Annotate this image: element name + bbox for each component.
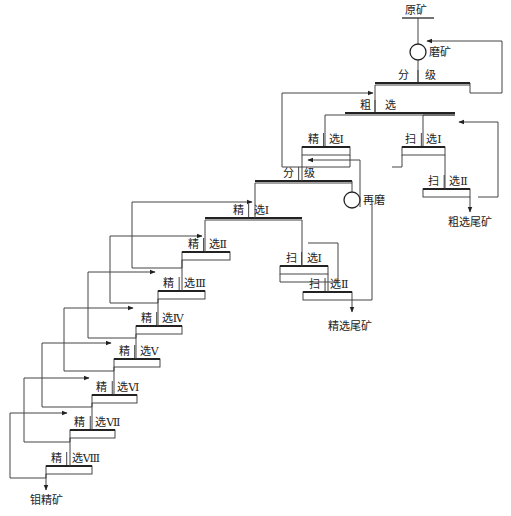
stage-scavenger-2-primary: 扫选Ⅱ bbox=[423, 175, 470, 197]
stage-label-left: 精 bbox=[188, 238, 199, 251]
regrind-label: 再磨 bbox=[363, 194, 385, 207]
stage-cleaner-5: 精选Ⅴ bbox=[114, 345, 160, 367]
stage-label-right: 选Ⅱ bbox=[209, 238, 227, 251]
stage-label-right: 选Ⅱ bbox=[449, 175, 467, 188]
flowsheet-diagram: 原矿 磨矿 分 级 粗 选 bbox=[0, 0, 511, 516]
stage-box bbox=[182, 252, 230, 260]
stage-label-left: 精 bbox=[74, 416, 85, 429]
feed-node: 原矿 bbox=[402, 4, 434, 44]
stage-cleaner-8: 精选Ⅷ bbox=[46, 452, 100, 474]
cleaner-tailings-label: 精选尾矿 bbox=[328, 320, 372, 333]
regrind-icon bbox=[344, 192, 360, 208]
stage-label-left: 粗 bbox=[360, 99, 371, 112]
stage-label-left: 扫 bbox=[405, 133, 416, 146]
stage-box bbox=[303, 292, 352, 300]
stage-label-right: 选Ⅰ bbox=[426, 133, 441, 146]
stage-cleaner-6: 精选Ⅵ bbox=[92, 381, 139, 403]
stage-label-left: 扫 bbox=[428, 175, 439, 188]
stage-cleaner-4: 精选Ⅳ bbox=[136, 312, 185, 334]
stage-box bbox=[114, 359, 160, 367]
mill-label: 磨矿 bbox=[429, 46, 451, 59]
stage-label-right: 选 bbox=[385, 99, 396, 112]
stage-label-right: 级 bbox=[304, 167, 315, 180]
stage-label-right: 选Ⅰ bbox=[329, 133, 344, 146]
stage-label-right: 选Ⅳ bbox=[162, 312, 185, 325]
stage-label-left: 扫 bbox=[309, 278, 320, 291]
mo-concentrate-label: 钼精矿 bbox=[30, 493, 63, 507]
stage-label-right: 选Ⅴ bbox=[140, 345, 160, 358]
stage-label-left: 扫 bbox=[286, 252, 297, 265]
stage-label-left: 分 bbox=[398, 69, 409, 82]
rougher-tailings-label: 粗选尾矿 bbox=[448, 216, 492, 229]
stage-cleaner-1: 精选Ⅰ bbox=[205, 204, 302, 220]
stage-box bbox=[423, 189, 470, 197]
feed-label: 原矿 bbox=[405, 4, 427, 17]
stage-label-right: 选Ⅶ bbox=[95, 416, 120, 429]
stage-label-left: 精 bbox=[96, 381, 107, 394]
stage-label-right: 选Ⅵ bbox=[117, 381, 139, 394]
stage-label-left: 精 bbox=[163, 277, 174, 290]
stage-label-right: 级 bbox=[425, 69, 436, 82]
stage-label-left: 精 bbox=[233, 204, 244, 217]
stage-label-right: 选Ⅰ bbox=[307, 252, 322, 265]
scav-conc-return-a bbox=[392, 155, 402, 167]
scav2-return bbox=[352, 204, 372, 300]
stage-label-right: 选Ⅰ bbox=[254, 204, 269, 217]
stage-box bbox=[46, 466, 92, 474]
stage-cleaner-2: 精选Ⅱ bbox=[182, 238, 230, 260]
stage-cleaner-1-primary: 精选Ⅰ bbox=[302, 133, 350, 155]
stage-label-left: 精 bbox=[119, 345, 130, 358]
stage-box bbox=[302, 147, 350, 155]
stage-label-right: 选Ⅲ bbox=[184, 277, 206, 290]
stage-label-left: 分 bbox=[283, 167, 294, 180]
stage-box bbox=[92, 395, 137, 403]
mill-icon bbox=[410, 44, 426, 60]
stage-box bbox=[158, 291, 205, 299]
stage-label-right: 选Ⅱ bbox=[330, 278, 348, 291]
stage-label-left: 精 bbox=[141, 312, 152, 325]
stage-box bbox=[402, 147, 445, 155]
stage-label-left: 精 bbox=[51, 452, 62, 465]
stage-cleaner-7: 精选Ⅶ bbox=[70, 416, 120, 438]
stage-scavenger-1: 扫选Ⅰ bbox=[280, 252, 328, 274]
stage-box bbox=[280, 266, 328, 274]
stage-classify-2: 分级 bbox=[255, 167, 352, 183]
stage-label-right: 选Ⅷ bbox=[72, 452, 100, 465]
stage-label-left: 精 bbox=[308, 133, 319, 146]
stage-box bbox=[70, 430, 115, 438]
stage-box bbox=[136, 326, 182, 334]
